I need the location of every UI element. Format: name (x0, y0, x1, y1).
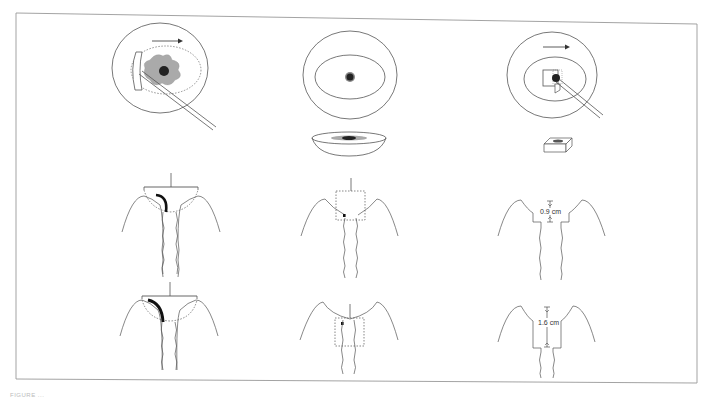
col2-mid-profile (301, 178, 398, 278)
excision-mark (343, 214, 346, 217)
depth-measurement-0-9: 0.9 cm (540, 201, 561, 222)
probe-icon (555, 84, 560, 93)
col3-mid-profile: 0.9 cm (498, 200, 605, 280)
loop-electrode-icon (133, 52, 142, 90)
figure-border (16, 13, 697, 383)
lesion-core (552, 74, 560, 82)
col1-top-view (112, 23, 216, 130)
col2-specimen-saucer (312, 132, 386, 156)
col3-specimen-box (544, 138, 572, 152)
lesion-core (159, 66, 169, 76)
arrow-right-icon (543, 45, 570, 50)
col3-bottom-profile: 1.6 cm (498, 306, 595, 378)
measurement-label: 0.9 cm (540, 208, 561, 215)
lesion-core (347, 74, 354, 81)
figure-caption: FIGURE ... (10, 392, 44, 398)
col1-mid-profile (122, 173, 220, 277)
col1-bottom-profile (120, 282, 218, 370)
col3-top-view (507, 32, 603, 118)
figure-canvas: 0.9 cm 1.6 cm (0, 0, 707, 402)
measurement-label: 1.6 cm (538, 319, 559, 326)
arrow-right-icon (152, 39, 183, 44)
col2-top-view (303, 31, 397, 119)
col2-bottom-profile (300, 302, 398, 374)
depth-measurement-1-6: 1.6 cm (538, 307, 559, 347)
